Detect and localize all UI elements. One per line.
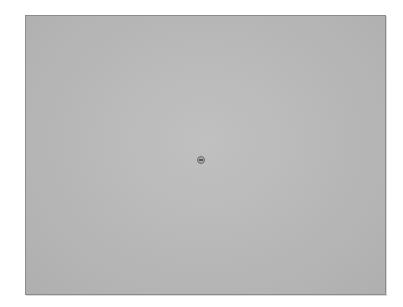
- blank-canvas-panel: [25, 15, 386, 295]
- circle-button-icon[interactable]: [197, 156, 205, 164]
- icon-mark: [199, 159, 203, 161]
